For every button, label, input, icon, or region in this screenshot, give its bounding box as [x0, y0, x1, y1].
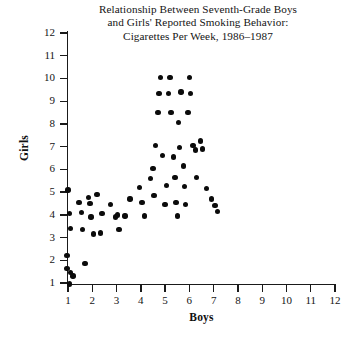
x-axis-tick-label: 9 [250, 295, 274, 306]
x-axis-tick [213, 285, 214, 292]
y-axis-tick-label: 5 [33, 186, 55, 197]
data-point [70, 273, 75, 278]
y-axis-tick [60, 169, 67, 170]
x-axis-tick [310, 285, 311, 292]
data-point [88, 214, 93, 219]
data-point [127, 196, 132, 201]
y-axis-tick [60, 78, 67, 79]
y-axis-tick [60, 55, 67, 56]
data-point [198, 138, 203, 143]
x-axis-tick [116, 285, 117, 292]
x-axis-tick-label: 8 [226, 295, 250, 306]
y-axis-tick-label: 8 [33, 118, 55, 129]
y-axis-tick-label: 3 [33, 232, 55, 243]
data-point [209, 196, 214, 201]
data-point [182, 184, 187, 189]
y-axis-tick-label: 2 [33, 254, 55, 265]
x-axis-tick [334, 285, 335, 292]
y-axis-tick [60, 123, 67, 124]
data-point [65, 187, 70, 192]
y-axis-tick [60, 101, 67, 102]
data-point [194, 175, 199, 180]
data-point [108, 202, 113, 207]
data-point [142, 213, 147, 218]
x-axis-tick-label: 4 [129, 295, 153, 306]
y-axis-label: Girls [18, 118, 30, 178]
y-axis-tick-label: 7 [33, 141, 55, 152]
data-point [164, 183, 169, 188]
data-point [156, 91, 161, 96]
y-axis-tick [60, 214, 67, 215]
data-point [98, 230, 103, 235]
data-point [215, 209, 220, 214]
data-point [200, 146, 205, 151]
data-point [76, 200, 81, 205]
x-axis-tick [189, 285, 190, 292]
chart-title-line-2: and Girls' Reported Smoking Behavior: [52, 16, 344, 29]
y-axis-tick-label: 6 [33, 163, 55, 174]
data-point [82, 261, 87, 266]
data-point [188, 91, 193, 96]
data-point [151, 193, 156, 198]
data-point [67, 211, 72, 216]
x-axis-tick-label: 12 [323, 295, 347, 306]
data-point [158, 75, 163, 80]
x-axis-tick-label: 7 [202, 295, 226, 306]
data-point [64, 253, 69, 258]
data-point [183, 202, 188, 207]
x-axis-tick [286, 285, 287, 292]
data-point [178, 89, 183, 94]
data-point [122, 213, 127, 218]
data-point [155, 110, 160, 115]
x-axis-line [67, 284, 336, 285]
data-point [91, 231, 96, 236]
data-point [168, 110, 173, 115]
data-point [204, 186, 209, 191]
data-point [80, 227, 85, 232]
data-point [116, 227, 121, 232]
x-axis-tick-label: 10 [274, 295, 298, 306]
chart-title-line-1: Relationship Between Seventh-Grade Boys [52, 3, 344, 16]
x-axis-tick [140, 285, 141, 292]
y-axis-tick [60, 260, 67, 261]
x-axis-tick [237, 285, 238, 292]
data-point [171, 154, 176, 159]
y-axis-tick-label: 12 [33, 27, 55, 38]
data-point [193, 147, 198, 152]
data-point [166, 91, 171, 96]
data-point [175, 213, 180, 218]
x-axis-tick-label: 11 [299, 295, 323, 306]
y-axis-tick-label: 9 [33, 95, 55, 106]
x-axis-tick-label: 2 [80, 295, 104, 306]
data-point [137, 185, 142, 190]
x-axis-tick-label: 5 [153, 295, 177, 306]
x-axis-tick [262, 285, 263, 292]
data-point [68, 226, 73, 231]
x-axis-tick-label: 6 [177, 295, 201, 306]
data-point [79, 210, 84, 215]
data-point [177, 145, 182, 150]
data-point [94, 192, 99, 197]
data-point [181, 163, 186, 168]
data-point [67, 281, 72, 286]
data-point [187, 75, 192, 80]
x-axis-tick-label: 1 [56, 295, 80, 306]
y-axis-tick [60, 282, 67, 283]
data-point [160, 153, 165, 158]
data-point [173, 200, 178, 205]
y-axis-tick [60, 32, 67, 33]
data-point [176, 120, 181, 125]
y-axis-tick-label: 1 [33, 277, 55, 288]
x-axis-label: Boys [68, 311, 335, 323]
data-point [153, 143, 158, 148]
x-axis-tick-label: 3 [105, 295, 129, 306]
scatter-chart-figure: Relationship Between Seventh-Grade Boys … [0, 0, 352, 348]
y-axis-tick-label: 4 [33, 209, 55, 220]
data-point [115, 212, 120, 217]
data-point [139, 200, 144, 205]
data-point [167, 75, 172, 80]
y-axis-tick-label: 10 [33, 72, 55, 83]
data-point [212, 203, 217, 208]
data-point [148, 176, 153, 181]
y-axis-tick-label: 11 [33, 50, 55, 61]
